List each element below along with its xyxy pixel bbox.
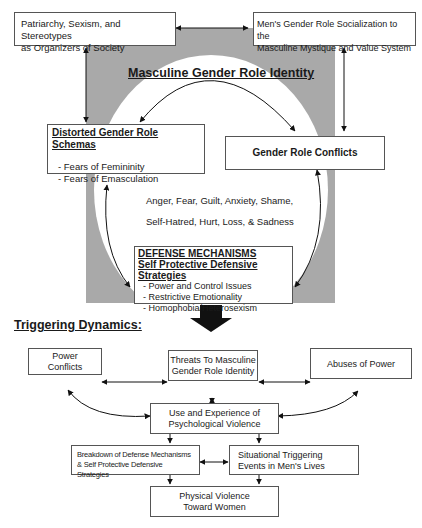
threats-line2: Gender Role Identity [172, 366, 255, 377]
physical-line2: Toward Women [183, 502, 245, 513]
defense-item: - Homophobia/Heterosexism [138, 303, 289, 314]
breakdown-line1: Breakdown of Defense Mechanisms [77, 450, 194, 460]
box-schemas: Distorted Gender Role Schemas - Fears of… [47, 124, 205, 174]
abuses-label: Abuses of Power [327, 358, 395, 370]
schemas-title: Distorted Gender Role Schemas [52, 127, 200, 151]
patriarchy-line2: as Organizers of Society [21, 42, 169, 54]
emotions-line1: Anger, Fear, Guilt, Anxiety, Shame, [146, 195, 293, 206]
box-power-conflicts: Power Conflicts [28, 348, 102, 375]
box-defense: DEFENSE MECHANISMS Self Protective Defen… [134, 246, 293, 304]
power-conflicts-line2: Conflicts [48, 362, 83, 373]
defense-item: - Power and Control Issues [138, 281, 289, 292]
emotions-line2: Self-Hatred, Hurt, Loss, & Sadness [146, 216, 294, 227]
breakdown-line2: & Self Protective Defensive Strategies [77, 460, 194, 480]
box-abuses: Abuses of Power [310, 348, 412, 379]
box-psych-violence: Use and Experience of Psychological Viol… [150, 403, 279, 434]
box-socialization: Men's Gender Role Socialization to the M… [253, 12, 416, 46]
threats-line1: Threats To Masculine [170, 355, 255, 366]
conflicts-label: Gender Role Conflicts [252, 147, 357, 159]
socialization-line2: Masculine Mystique and Value System [257, 42, 412, 54]
patriarchy-line1: Patriarchy, Sexism, and Stereotypes [21, 18, 169, 42]
triggering-heading: Triggering Dynamics: [14, 318, 142, 332]
schemas-item: - Fears of Femininity [52, 161, 200, 173]
box-physical-violence: Physical Violence Toward Women [150, 486, 279, 517]
defense-title2: Self Protective Defensive Strategies [138, 259, 289, 281]
psych-line2: Psychological Violence [169, 419, 261, 430]
identity-title: Masculine Gender Role Identity [128, 66, 314, 80]
psych-line1: Use and Experience of [169, 408, 260, 419]
situational-line2: Events in Men's Lives [238, 461, 350, 472]
socialization-line1: Men's Gender Role Socialization to the [257, 18, 412, 42]
box-breakdown: Breakdown of Defense Mechanisms & Self P… [71, 445, 200, 475]
physical-line1: Physical Violence [179, 491, 249, 502]
box-situational: Situational Triggering Events in Men's L… [229, 445, 359, 475]
schemas-item: - Fears of Emasculation [52, 173, 200, 185]
box-patriarchy: Patriarchy, Sexism, and Stereotypes as O… [14, 12, 176, 46]
box-conflicts: Gender Role Conflicts [225, 136, 385, 170]
power-conflicts-line1: Power [52, 351, 78, 362]
box-threats: Threats To Masculine Gender Role Identit… [168, 350, 258, 381]
situational-line1: Situational Triggering [238, 450, 350, 461]
defense-item: - Restrictive Emotionality [138, 292, 289, 303]
defense-title1: DEFENSE MECHANISMS [138, 248, 289, 259]
